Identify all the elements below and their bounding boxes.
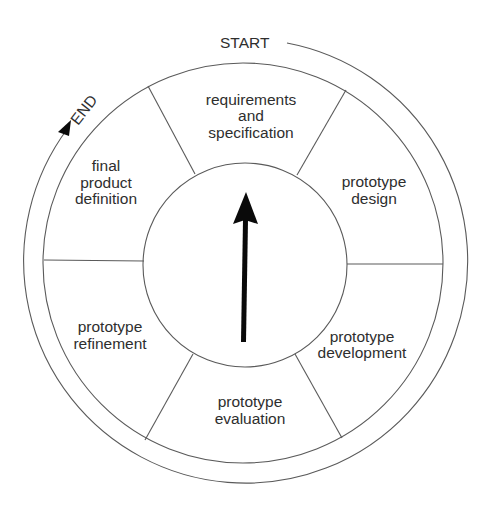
end-arrowhead-icon	[58, 120, 71, 136]
segment-label-line: definition	[75, 190, 137, 207]
divider-left	[44, 260, 144, 261]
segment-label-line: refinement	[73, 335, 147, 352]
segment-final: final product definition	[75, 157, 137, 207]
segment-design: prototype design	[342, 173, 407, 207]
segment-label-line: prototype	[218, 393, 283, 410]
segment-label-line: prototype	[78, 318, 143, 335]
segment-label-line: and	[238, 107, 264, 124]
divider-lower-left	[145, 354, 193, 440]
segment-evaluation: prototype evaluation	[215, 393, 286, 427]
segment-refinement: prototype refinement	[73, 318, 147, 352]
divider-upper-left	[148, 86, 195, 174]
segment-label-line: prototype	[330, 328, 395, 345]
divider-lower-right	[295, 354, 342, 438]
divider-upper-right	[297, 90, 346, 175]
segment-label-line: development	[318, 344, 407, 361]
start-label: START	[220, 34, 270, 51]
segment-label-line: product	[80, 174, 132, 191]
segment-label-line: evaluation	[215, 410, 286, 427]
end-label: END	[67, 92, 101, 128]
segment-development: prototype development	[318, 328, 407, 361]
segment-label-line: requirements	[206, 91, 297, 108]
segment-requirements: requirements and specification	[206, 91, 297, 141]
segment-label-line: design	[351, 190, 397, 207]
prototyping-cycle-diagram: START END requirements and specification…	[0, 0, 479, 516]
up-arrow-icon	[233, 192, 258, 342]
segment-label-line: prototype	[342, 173, 407, 190]
segment-label-line: final	[92, 157, 120, 174]
segment-label-line: specification	[208, 124, 293, 141]
